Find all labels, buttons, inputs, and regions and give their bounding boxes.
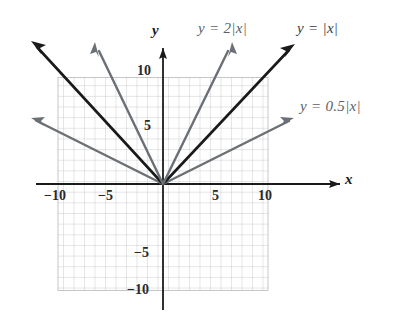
curve-2abs-right-arrowhead (228, 42, 237, 57)
y-tick-neg-10: −10 (127, 282, 149, 298)
curve-half-abs-right-arrowhead (280, 117, 294, 126)
x-tick-pos-5: 5 (212, 188, 219, 204)
equation-label-half-abs: y = 0.5|x| (300, 98, 361, 115)
coordinate-plane-svg (0, 0, 401, 321)
curve-abs-left-arrowhead (31, 41, 46, 54)
x-tick-pos-10: 10 (258, 188, 272, 204)
curve-half-abs-left-arrowhead (31, 117, 45, 126)
equation-label-abs: y = |x| (297, 20, 338, 37)
absolute-value-graph-figure: y = 2|x| y = |x| y = 0.5|x| x y −10 −5 5… (0, 0, 401, 321)
equation-label-2abs: y = 2|x| (198, 20, 247, 37)
x-tick-neg-5: −5 (98, 188, 113, 204)
curve-abs-right-arrowhead (280, 44, 295, 57)
y-tick-pos-5: 5 (144, 118, 151, 134)
x-tick-neg-10: −10 (44, 188, 66, 204)
y-tick-pos-10: 10 (137, 63, 151, 79)
x-axis-label: x (345, 171, 353, 188)
y-tick-neg-5: −5 (134, 245, 149, 261)
curve-2abs-left-arrowhead (90, 42, 99, 57)
y-axis-label: y (152, 22, 159, 39)
